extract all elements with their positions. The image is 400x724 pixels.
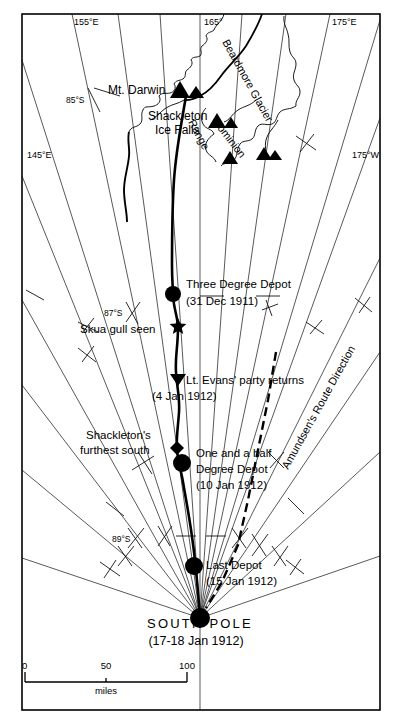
latitude-ticks [26, 88, 372, 578]
event-label-one-and-a-half-line3: (10 Jan 1912) [196, 479, 267, 491]
event-label-three-degree-depot-line1: Three Degree Depot [186, 278, 292, 290]
marker-three-degree-depot [165, 286, 181, 302]
latitude-label-87s: 87°S [104, 308, 123, 318]
event-label-skua-gull-seen: Skua gull seen [80, 323, 155, 335]
event-label-last-depot-line2: (15 Jan 1912) [206, 575, 277, 587]
longitude-label-175w: 175°W [352, 150, 380, 160]
map-figure: 155°E 165° 175°E 145°E 175°W 85°S 87°S 8… [0, 0, 400, 724]
south-pole-label: SOUTH POLE [147, 616, 253, 631]
scale-tick-0: 0 [22, 660, 27, 671]
longitude-label-175e: 175°E [332, 17, 357, 27]
scott-route-line [172, 96, 200, 616]
longitude-label-145e: 145°E [27, 150, 52, 160]
event-label-last-depot-line1: Last Depot [206, 559, 262, 571]
south-pole-date: (17-18 Jan 1912) [148, 634, 243, 648]
event-label-one-and-a-half-line1: One and a half [196, 447, 272, 459]
event-label-one-and-a-half-line2: Degree Depot [196, 463, 268, 475]
longitude-label-165: 165° [204, 17, 223, 27]
event-label-three-degree-depot-line2: (31 Dec 1911) [186, 295, 258, 307]
event-label-lt-evans-line1: Lt. Evans' party returns [186, 374, 304, 386]
map-canvas: 155°E 165° 175°E 145°E 175°W 85°S 87°S 8… [0, 0, 400, 724]
scale-unit-label: miles [95, 685, 117, 696]
scale-bar: 0 50 100 miles [22, 660, 195, 696]
marker-one-and-a-half-degree-depot [173, 454, 191, 472]
latitude-label-85s: 85°S [66, 95, 85, 105]
marker-last-depot [185, 557, 203, 575]
event-label-lt-evans-line2: (4 Jan 1912) [152, 390, 217, 402]
marker-shackleton-furthest-diamond [170, 441, 184, 455]
place-label-beardmore-glacier: Beardmore Glacier [220, 37, 275, 124]
latitude-label-89s: 89°S [112, 534, 131, 544]
place-label-mt-darwin: Mt. Darwin [108, 83, 165, 97]
event-label-shackletons-furthest-line1: Shackleton's [86, 429, 151, 441]
marker-lt-evans-triangle [170, 374, 186, 386]
scale-tick-50: 50 [101, 660, 112, 671]
amundsen-route-label: Amundsen's Route Direction [279, 344, 357, 471]
event-label-shackletons-furthest-line2: furthest south [80, 444, 150, 456]
scale-tick-100: 100 [179, 660, 195, 671]
longitude-label-155e: 155°E [74, 17, 99, 27]
